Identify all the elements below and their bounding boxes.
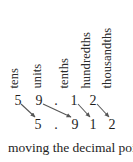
caption-text: moving the decimal poi	[8, 141, 133, 155]
top-digit-hundredths: 2	[87, 94, 99, 108]
column-label-thousandths: thousandths	[101, 27, 114, 88]
column-label-units: units	[31, 63, 44, 88]
top-digit-tenths: 1	[68, 94, 80, 108]
column-label-tenths: tenths	[58, 58, 71, 88]
top-digit-tens: 5	[12, 94, 24, 108]
bottom-decimal-point: .	[50, 118, 62, 132]
top-digit-units: 9	[33, 94, 45, 108]
bottom-digit-thousandths: 2	[106, 118, 118, 132]
bottom-digit-tenths: 9	[69, 118, 81, 132]
bottom-digit-hundredths: 1	[87, 118, 99, 132]
top-decimal-point: .	[50, 94, 62, 108]
column-label-tens: tens	[8, 67, 21, 88]
bottom-digit-units: 5	[32, 118, 44, 132]
place-value-diagram: tens units tenths hundredths thousandths…	[0, 0, 133, 162]
column-label-hundredths: hundredths	[80, 31, 93, 88]
